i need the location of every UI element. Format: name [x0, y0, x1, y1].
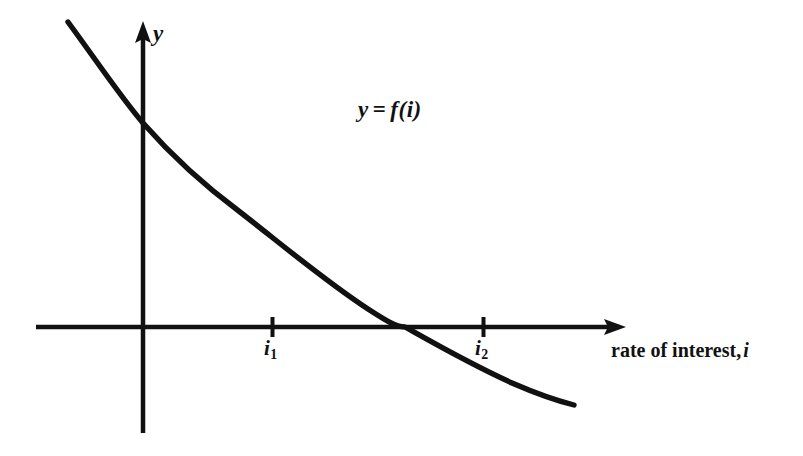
equation-annotation: y=f(i)	[358, 98, 422, 121]
y-axis-label: y	[153, 22, 163, 45]
tick-label-i1-subscript: 1	[270, 347, 277, 362]
x-axis-label-symbol: i	[741, 339, 749, 361]
tick-label-i2-subscript: 2	[481, 347, 488, 362]
equation-rhs: f(i)	[390, 97, 421, 122]
tick-label-i2-base: i	[475, 336, 481, 360]
x-axis-group	[36, 319, 626, 335]
tick-label-i1: i1	[264, 338, 277, 362]
tick-label-i2: i2	[475, 338, 488, 362]
tick-label-i1-base: i	[264, 336, 270, 360]
equation-lhs: y	[358, 97, 369, 122]
x-axis-label: rate of interest,i	[611, 340, 749, 360]
figure-canvas: y y=f(i) i1 i2 rate of interest,i	[0, 0, 803, 456]
y-axis-group	[135, 21, 151, 433]
x-axis-label-text: rate of interest,	[611, 339, 741, 361]
equation-operator: =	[369, 97, 391, 122]
plot-area	[0, 0, 803, 456]
